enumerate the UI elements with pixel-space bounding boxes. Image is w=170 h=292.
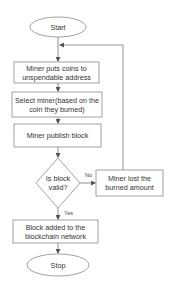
edge-label-yes: Yes: [64, 210, 73, 216]
puts-coins-label: Miner puts coins to unspendable address: [16, 62, 97, 83]
select-miner-label: Select miner(based on the coin they burn…: [14, 92, 100, 117]
valid-label: Is block valid?: [42, 173, 74, 193]
publish-label: Miner publish block: [14, 124, 101, 147]
stop-label: Stop: [27, 254, 89, 276]
added-label: Block added to the blockchain network: [15, 220, 96, 243]
edge-label-no: No: [85, 172, 92, 178]
start-label: Start: [30, 17, 86, 37]
lost-label: Miner lost the burned amount: [98, 170, 161, 196]
